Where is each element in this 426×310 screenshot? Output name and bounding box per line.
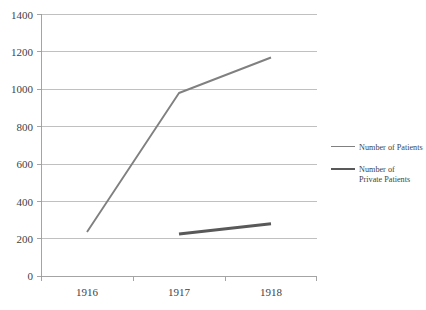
y-tick-label-600: 600 — [17, 158, 34, 170]
chart-background — [0, 0, 426, 310]
y-tick-label-1000: 1000 — [11, 83, 34, 95]
y-tick-label-0: 0 — [28, 270, 34, 282]
legend-label-number-of-patients: Number of Patients — [359, 143, 423, 152]
y-tick-label-800: 800 — [17, 121, 34, 133]
x-tick-label-1916: 1916 — [76, 286, 99, 298]
y-tick-label-400: 400 — [17, 196, 34, 208]
y-tick-label-1200: 1200 — [11, 46, 34, 58]
y-tick-label-200: 200 — [17, 233, 34, 245]
chart-canvas: 1400 1200 1000 800 600 400 200 0 1916 19… — [0, 0, 426, 310]
x-tick-label-1918: 1918 — [260, 286, 283, 298]
legend-label-number-of-private-patients-line2: Private Patients — [359, 175, 410, 184]
line-chart: 1400 1200 1000 800 600 400 200 0 1916 19… — [0, 0, 426, 310]
legend-label-number-of-private-patients-line1: Number of — [359, 165, 395, 174]
x-tick-label-1917: 1917 — [168, 286, 191, 298]
y-tick-label-1400: 1400 — [11, 9, 34, 21]
